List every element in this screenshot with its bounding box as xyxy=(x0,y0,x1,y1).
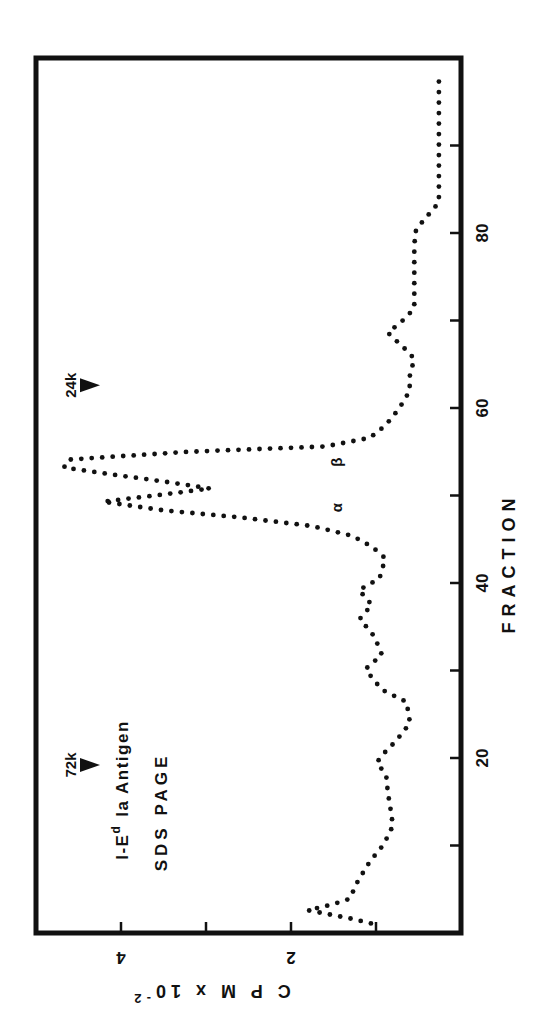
data-point xyxy=(360,592,365,597)
data-point xyxy=(385,786,390,791)
data-point xyxy=(375,682,380,687)
data-point xyxy=(373,547,378,552)
data-point xyxy=(379,845,384,850)
data-point xyxy=(263,518,268,523)
data-point xyxy=(253,517,258,522)
data-point xyxy=(62,464,67,469)
data-point xyxy=(437,132,442,137)
data-point xyxy=(221,514,226,519)
data-point xyxy=(289,445,294,450)
data-point xyxy=(152,452,157,457)
data-point xyxy=(365,665,370,670)
data-point xyxy=(110,454,115,459)
cpm-tick-labels: 24 xyxy=(116,948,296,967)
data-point xyxy=(405,393,410,398)
y-axis-label-exponent: -2 xyxy=(129,991,151,1006)
data-point xyxy=(175,481,180,486)
data-point xyxy=(317,910,322,915)
marker-arrow-icon xyxy=(80,758,100,772)
data-point xyxy=(361,437,366,442)
marker-label: 72k xyxy=(62,752,79,778)
data-point xyxy=(355,536,360,541)
data-point xyxy=(370,580,375,585)
data-point xyxy=(420,220,425,225)
chart-svg: 20406080 24 72k24k αβ FRACTION C P M x 1… xyxy=(0,0,555,1009)
data-point xyxy=(376,758,381,763)
data-point xyxy=(409,354,414,359)
data-point xyxy=(123,474,128,479)
data-point xyxy=(180,510,185,515)
data-point xyxy=(105,499,110,504)
data-point xyxy=(408,311,413,316)
molecular-weight-markers: 72k24k xyxy=(62,372,100,777)
data-point xyxy=(437,195,442,200)
data-point xyxy=(400,318,405,323)
data-point xyxy=(206,486,211,491)
data-point xyxy=(379,766,384,771)
plot-frame xyxy=(36,58,461,933)
data-point xyxy=(386,796,391,801)
data-point xyxy=(412,249,417,254)
data-point xyxy=(189,489,194,494)
data-point xyxy=(310,445,315,450)
data-point xyxy=(412,260,417,265)
data-point xyxy=(328,912,333,917)
data-point xyxy=(437,111,442,116)
title-superscript-d: d xyxy=(109,825,123,834)
data-point xyxy=(390,742,395,747)
data-point xyxy=(383,750,388,755)
data-point xyxy=(299,445,304,450)
data-point xyxy=(345,897,350,902)
data-point xyxy=(408,373,413,378)
data-point xyxy=(325,903,330,908)
data-point xyxy=(364,624,369,629)
data-point xyxy=(346,532,351,537)
data-point xyxy=(294,522,299,527)
data-point xyxy=(371,433,376,438)
data-point xyxy=(437,153,442,158)
data-point xyxy=(215,448,220,453)
data-point xyxy=(348,916,353,921)
data-point xyxy=(211,513,216,518)
peak-annotations: αβ xyxy=(328,458,345,513)
data-point xyxy=(367,600,372,605)
data-point xyxy=(315,525,320,530)
data-point xyxy=(365,542,370,547)
marker-label: 24k xyxy=(62,372,79,398)
data-point xyxy=(393,411,398,416)
peak-label: β xyxy=(328,458,345,467)
data-point xyxy=(365,608,370,613)
data-point xyxy=(338,914,343,919)
data-point xyxy=(402,346,407,351)
data-point xyxy=(315,906,320,911)
data-point xyxy=(404,726,409,731)
data-point xyxy=(414,229,419,234)
data-point xyxy=(379,651,384,656)
data-point xyxy=(144,477,149,482)
data-point xyxy=(196,484,201,489)
data-point xyxy=(92,470,97,475)
data-point xyxy=(148,506,153,511)
data-point xyxy=(232,514,237,519)
data-point xyxy=(341,441,346,446)
fraction-tick-label: 40 xyxy=(473,574,492,593)
data-point xyxy=(194,449,199,454)
data-point xyxy=(330,443,335,448)
data-point xyxy=(236,447,241,452)
data-point xyxy=(305,523,310,528)
data-point xyxy=(378,574,383,579)
data-point xyxy=(407,717,412,722)
data-point xyxy=(360,871,365,876)
chart-title-line2: SDS PAGE xyxy=(152,753,171,872)
data-point xyxy=(159,508,164,513)
data-point xyxy=(137,495,142,500)
data-point xyxy=(366,862,371,867)
data-point xyxy=(358,919,363,924)
data-point xyxy=(399,402,404,407)
data-point xyxy=(173,450,178,455)
data-point xyxy=(205,449,210,454)
data-point xyxy=(437,174,442,179)
data-point xyxy=(335,900,340,905)
data-point xyxy=(379,426,384,431)
chart-title-line1: I-EdIa Antigen xyxy=(109,720,132,860)
